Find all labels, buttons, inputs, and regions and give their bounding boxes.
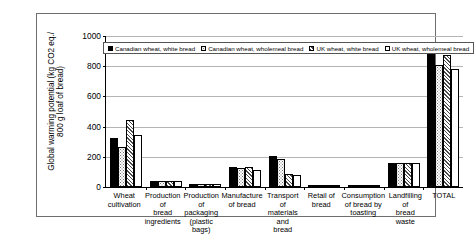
bar[interactable]	[348, 185, 356, 187]
bar[interactable]	[213, 184, 221, 187]
bar[interactable]	[174, 181, 182, 187]
bar[interactable]	[396, 163, 404, 187]
x-axis-label: TOTAL	[425, 192, 463, 228]
bar[interactable]	[134, 135, 142, 187]
bar[interactable]	[245, 167, 253, 187]
bar[interactable]	[332, 185, 340, 187]
bar[interactable]	[308, 185, 316, 187]
y-tick-label: 600	[87, 91, 101, 101]
bar-group	[225, 36, 265, 187]
x-axis-label: Production of packaging (plastic bags)	[182, 192, 220, 228]
chart-frame: Global warming potential (kg CO2 eq./ 80…	[36, 13, 436, 217]
bar[interactable]	[372, 185, 380, 187]
bar-group	[304, 36, 344, 187]
bar[interactable]	[435, 65, 443, 187]
legend-label: Canadian wheat, wholemeal bread	[208, 45, 303, 52]
x-axis-label: Transport of materials and bread	[264, 192, 302, 228]
legend-item[interactable]: UK wheat, wholemeal bread	[385, 45, 469, 52]
bar-set	[269, 36, 301, 187]
bar[interactable]	[189, 184, 197, 187]
bar[interactable]	[229, 167, 237, 187]
x-axis-label: Wheat cultivation	[105, 192, 143, 228]
legend-swatch-icon	[201, 46, 206, 51]
y-tick-mark	[103, 187, 106, 188]
bar[interactable]	[293, 175, 301, 187]
bar[interactable]	[197, 184, 205, 187]
x-axis-label: Landfilling of bread waste	[386, 192, 424, 228]
chart-legend: Canadian wheat, white breadCanadian whea…	[103, 42, 474, 54]
bar-group	[265, 36, 305, 187]
bar-set	[308, 36, 340, 187]
bar-set	[110, 36, 142, 187]
x-axis-labels: Wheat cultivationProduction of bread ing…	[105, 192, 463, 228]
bar-group	[423, 36, 463, 187]
bar[interactable]	[150, 181, 158, 187]
bar[interactable]	[118, 147, 126, 187]
x-axis-label: Retail of bread	[302, 192, 340, 228]
bar[interactable]	[404, 163, 412, 187]
bar-group	[146, 36, 186, 187]
bar[interactable]	[166, 181, 174, 187]
bar[interactable]	[443, 55, 451, 187]
bar[interactable]	[269, 156, 277, 187]
bar-group	[384, 36, 424, 187]
bar[interactable]	[388, 163, 396, 187]
bar-groups	[106, 36, 463, 187]
bar-group	[185, 36, 225, 187]
x-axis-label: Production of bread ingredients	[143, 192, 181, 228]
bar-set	[150, 36, 182, 187]
bar[interactable]	[412, 163, 420, 187]
bar[interactable]	[277, 159, 285, 187]
x-axis-label: Consumption of bread by toasting	[341, 192, 387, 228]
bar-set	[427, 36, 459, 187]
bar[interactable]	[126, 120, 134, 187]
y-tick-label: 800	[87, 61, 101, 71]
bar[interactable]	[324, 185, 332, 187]
bar[interactable]	[356, 185, 364, 187]
legend-label: UK wheat, white bread	[316, 45, 378, 52]
bar-set	[229, 36, 261, 187]
bar-group	[344, 36, 384, 187]
bar[interactable]	[316, 185, 324, 187]
bar-set	[348, 36, 380, 187]
y-tick-label: 400	[87, 122, 101, 132]
bar[interactable]	[285, 174, 293, 187]
legend-swatch-icon	[309, 46, 314, 51]
legend-item[interactable]: UK wheat, white bread	[309, 45, 378, 52]
plot-area: 02004006008001000	[105, 36, 463, 188]
legend-swatch-icon	[385, 46, 390, 51]
legend-item[interactable]: Canadian wheat, white bread	[108, 45, 195, 52]
legend-swatch-icon	[108, 46, 113, 51]
bar[interactable]	[205, 184, 213, 187]
y-tick-label: 1000	[82, 31, 101, 41]
bar[interactable]	[158, 181, 166, 187]
x-axis-label: Manufacture of bread	[220, 192, 263, 228]
y-tick-label: 200	[87, 152, 101, 162]
bar-set	[388, 36, 420, 187]
bar-set	[189, 36, 221, 187]
bar[interactable]	[253, 170, 261, 187]
bar[interactable]	[110, 138, 118, 187]
y-tick-label: 0	[96, 182, 101, 192]
bar-group	[106, 36, 146, 187]
legend-item[interactable]: Canadian wheat, wholemeal bread	[201, 45, 303, 52]
bar[interactable]	[364, 185, 372, 187]
bar[interactable]	[237, 168, 245, 187]
bar[interactable]	[451, 69, 459, 187]
y-axis-title: Global warming potential (kg CO2 eq./ 80…	[47, 3, 66, 199]
legend-label: Canadian wheat, white bread	[115, 45, 195, 52]
legend-label: UK wheat, wholemeal bread	[392, 45, 469, 52]
bar[interactable]	[427, 46, 435, 187]
